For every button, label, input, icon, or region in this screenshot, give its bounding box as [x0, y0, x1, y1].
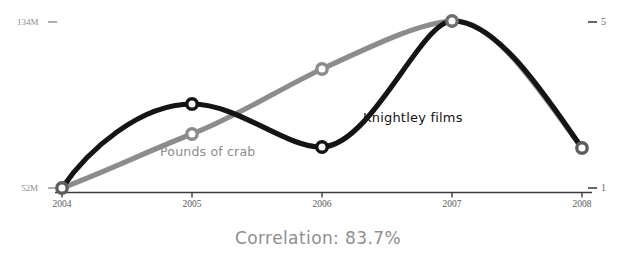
x-tick-label-2004: 2004: [53, 199, 72, 209]
series-label-knightley-films: Knightley films: [363, 110, 463, 125]
x-tick-label-2008: 2008: [573, 199, 592, 209]
chart-plot-area: [0, 0, 636, 263]
right-axis-max-label: 5: [601, 16, 606, 27]
correlation-chart: 134M 52M 5 1 2004 2005 2006 2007 2008 Po…: [0, 0, 636, 263]
series-markers-shared-endpoints: [57, 16, 587, 193]
left-axis-min-label: 52M: [21, 183, 38, 193]
correlation-caption: Correlation: 83.7%: [235, 228, 401, 248]
x-tick-label-2006: 2006: [313, 199, 332, 209]
left-axis-max-label: 134M: [17, 17, 39, 27]
x-tick-label-2005: 2005: [183, 199, 202, 209]
right-axis-min-label: 1: [601, 182, 606, 193]
series-label-pounds-of-crab: Pounds of crab: [160, 144, 255, 159]
series-line-knightley-films: [62, 21, 582, 188]
x-tick-label-2007: 2007: [443, 199, 462, 209]
